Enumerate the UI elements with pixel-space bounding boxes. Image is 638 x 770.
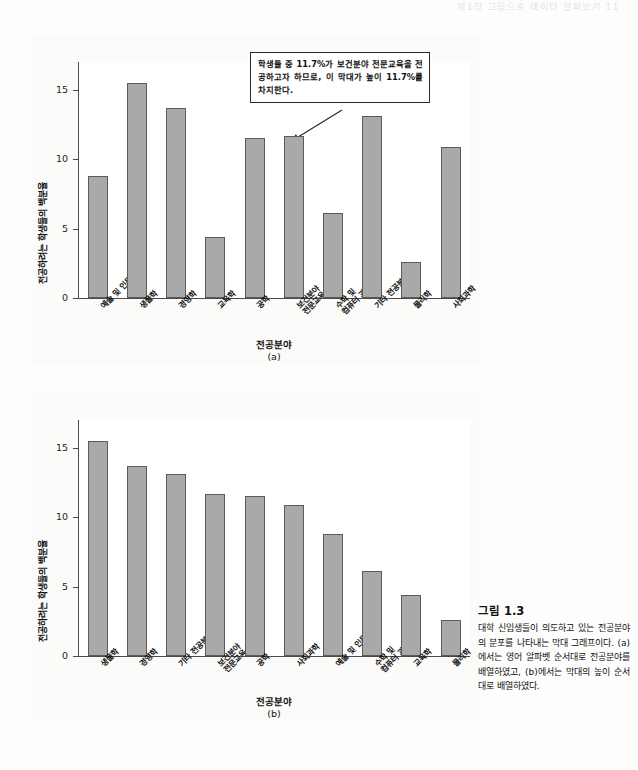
y-tick-a-0 xyxy=(73,298,78,299)
y-axis-title-b: 전공하려는 학생들의 백분율 xyxy=(36,540,49,642)
bar xyxy=(245,496,265,656)
y-tick-b-5 xyxy=(73,587,78,588)
bar xyxy=(441,147,461,298)
figure-page: 제1장 그림으로 데이터 살펴보기 11 학생들 중 11.7%가 보건분야 전… xyxy=(0,0,638,770)
y-tick-label-b-10: 10 xyxy=(42,511,68,522)
bar xyxy=(88,176,108,298)
bar xyxy=(88,441,108,656)
y-tick-a-10 xyxy=(73,159,78,160)
bar xyxy=(127,83,147,298)
bar xyxy=(166,474,186,656)
y-tick-label-a-10: 10 xyxy=(42,153,68,164)
figure-caption: 그림 1.3 대학 신입생들이 의도하고 있는 전공분야의 분포를 나타내는 막… xyxy=(478,602,630,694)
bar xyxy=(127,466,147,656)
y-tick-label-b-0: 0 xyxy=(42,650,68,661)
x-axis-a xyxy=(78,298,470,299)
y-tick-label-a-15: 15 xyxy=(42,84,68,95)
y-tick-a-5 xyxy=(73,229,78,230)
y-tick-b-0 xyxy=(73,656,78,657)
x-axis-b xyxy=(78,656,470,657)
bar xyxy=(323,213,343,298)
bar xyxy=(323,534,343,656)
panel-label-b: (b) xyxy=(78,708,470,719)
y-tick-label-b-15: 15 xyxy=(42,442,68,453)
y-tick-label-a-0: 0 xyxy=(42,292,68,303)
y-tick-a-15 xyxy=(73,90,78,91)
bar xyxy=(362,116,382,298)
running-header: 제1장 그림으로 데이터 살펴보기 11 xyxy=(457,0,620,14)
figure-caption-body: 대학 신입생들이 의도하고 있는 전공분야의 분포를 나타내는 막대 그래프이다… xyxy=(478,621,630,694)
x-axis-title-b: 전공분야 xyxy=(78,694,470,708)
bar xyxy=(401,595,421,656)
bar xyxy=(441,620,461,656)
y-axis-a xyxy=(78,62,79,298)
y-axis-b xyxy=(78,420,79,656)
bar xyxy=(284,505,304,656)
bar xyxy=(362,571,382,656)
bar xyxy=(166,108,186,298)
y-tick-b-15 xyxy=(73,448,78,449)
panel-label-a: (a) xyxy=(78,351,470,362)
callout-annotation: 학생들 중 11.7%가 보건분야 전문교육을 전공하고자 하므로, 이 막대가… xyxy=(250,52,430,103)
figure-caption-title: 그림 1.3 xyxy=(478,602,630,618)
bar xyxy=(245,138,265,298)
y-tick-b-10 xyxy=(73,517,78,518)
bar xyxy=(401,262,421,298)
bar xyxy=(284,136,304,298)
y-axis-title-a: 전공하려는 학생들의 백분율 xyxy=(36,182,49,284)
bar xyxy=(205,494,225,656)
bar xyxy=(205,237,225,298)
x-axis-title-a: 전공분야 xyxy=(78,337,470,351)
